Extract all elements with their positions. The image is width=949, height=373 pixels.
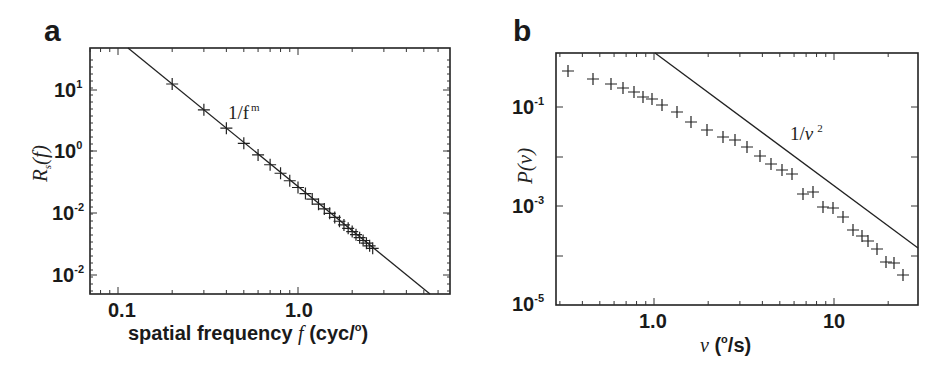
data-point-marker	[888, 257, 900, 269]
data-point-marker	[605, 78, 617, 90]
chart-b-ytick-label: 10-3	[512, 194, 544, 217]
data-point-marker	[817, 201, 829, 213]
data-point-marker	[797, 188, 809, 200]
chart-a-ytick-label: 10-2	[52, 263, 84, 286]
data-point-marker	[827, 202, 839, 214]
chart-a-ytick-label: 10-2	[52, 201, 84, 224]
chart-b-ytick-label: 10-5	[512, 292, 544, 315]
chart-a-annotation: 1/fm	[228, 101, 260, 123]
data-point-marker	[741, 141, 753, 153]
data-point-marker	[880, 256, 892, 268]
chart-a-xtick-label: 1.0	[285, 299, 313, 321]
data-point-marker	[807, 186, 819, 198]
data-point-marker	[754, 150, 766, 162]
data-point-marker	[701, 124, 713, 136]
chart-b-fit-line	[655, 53, 918, 248]
chart-b-y-axis-title: P(ν)	[513, 148, 537, 185]
data-point-marker	[656, 99, 668, 111]
data-point-marker	[717, 131, 729, 143]
data-point-marker	[637, 91, 649, 103]
chart-b-xtick-label: 1.0	[639, 310, 667, 332]
chart-b-data-points	[562, 65, 909, 281]
data-point-marker	[628, 86, 640, 98]
data-point-marker	[897, 269, 909, 281]
chart-a-xtick-label: 0.1	[108, 299, 136, 321]
chart-a: 1/fm 101 100 10-2 10-2 0.1 1.0 spatial f…	[28, 48, 450, 345]
chart-b-x-axis-title: ν (o/s)	[700, 333, 751, 356]
data-point-marker	[862, 235, 874, 247]
data-point-marker	[617, 82, 629, 94]
chart-b-annotation: 1/1/νν2	[790, 122, 823, 144]
data-point-marker	[646, 93, 658, 105]
chart-a-fit-line	[128, 48, 430, 294]
chart-b-frame	[556, 53, 918, 305]
data-point-marker	[671, 106, 683, 118]
data-point-marker	[856, 230, 868, 242]
data-point-marker	[562, 65, 574, 77]
chart-b: 1/1/νν2 10-1 10-3 10-5 1.0 10 ν (o/s) P(…	[512, 53, 918, 356]
chart-b-ticks	[556, 53, 918, 305]
data-point-marker	[847, 224, 859, 236]
data-point-marker	[871, 243, 883, 255]
chart-a-y-axis-title: Rs(f)	[28, 145, 53, 183]
chart-a-ticks	[90, 48, 450, 294]
data-point-marker	[837, 211, 849, 223]
chart-b-xtick-label: 10	[823, 310, 845, 332]
data-point-marker	[587, 73, 599, 85]
data-point-marker	[729, 134, 741, 146]
chart-a-ytick-label: 100	[54, 139, 82, 162]
chart-a-x-axis-title: spatial frequency f (cyc/o)	[128, 321, 368, 345]
chart-a-ytick-label: 101	[54, 78, 82, 101]
chart-a-frame	[90, 48, 450, 294]
chart-b-ytick-label: 10-1	[512, 95, 544, 118]
data-point-marker	[685, 116, 697, 128]
data-point-marker	[765, 158, 777, 170]
figure-canvas: 1/fm 101 100 10-2 10-2 0.1 1.0 spatial f…	[0, 0, 949, 373]
